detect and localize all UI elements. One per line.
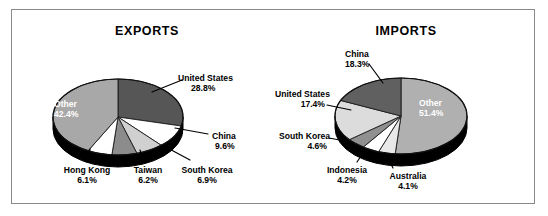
imports-panel: IMPORTS Other 51.4% Australia 4.1% Indon… bbox=[273, 10, 535, 203]
exports-label-taiwan: Taiwan 6.2% bbox=[124, 165, 172, 185]
exports-label-other-name: Other bbox=[54, 99, 77, 109]
exports-label-china-value: 9.6% bbox=[212, 141, 236, 151]
exports-label-china: China 9.6% bbox=[212, 131, 236, 151]
chart-frame: EXPORTS United States 28.8% China 9.6% S… bbox=[11, 9, 535, 204]
imports-label-united-states-name: United States bbox=[275, 89, 330, 99]
imports-label-china: China 18.3% bbox=[345, 49, 369, 69]
exports-label-china-name: China bbox=[212, 131, 236, 141]
imports-label-indonesia-value: 4.2% bbox=[317, 175, 377, 185]
exports-label-hong-kong-value: 6.1% bbox=[54, 175, 120, 185]
exports-label-hong-kong: Hong Kong 6.1% bbox=[54, 165, 120, 185]
imports-label-other-value: 51.4% bbox=[419, 108, 443, 118]
imports-label-united-states-value: 17.4% bbox=[275, 99, 325, 109]
imports-label-south-korea: South Korea 4.6% bbox=[279, 131, 327, 151]
exports-label-united-states-name: United States bbox=[178, 73, 233, 83]
exports-label-taiwan-value: 6.2% bbox=[124, 175, 172, 185]
imports-label-china-value: 18.3% bbox=[345, 59, 369, 69]
imports-label-other: Other 51.4% bbox=[419, 98, 443, 118]
imports-label-south-korea-value: 4.6% bbox=[279, 141, 327, 151]
imports-label-australia: Australia 4.1% bbox=[380, 171, 436, 191]
exports-label-south-korea-name: South Korea bbox=[181, 165, 232, 175]
exports-label-other-value: 42.4% bbox=[54, 109, 78, 119]
exports-label-united-states-value: 28.8% bbox=[178, 83, 233, 93]
exports-label-united-states: United States 28.8% bbox=[178, 73, 233, 93]
imports-label-australia-value: 4.1% bbox=[380, 181, 436, 191]
exports-label-south-korea-value: 6.9% bbox=[176, 175, 238, 185]
imports-label-south-korea-name: South Korea bbox=[279, 131, 330, 141]
imports-label-indonesia: Indonesia 4.2% bbox=[317, 165, 377, 185]
imports-label-indonesia-name: Indonesia bbox=[327, 165, 367, 175]
exports-label-other: Other 42.4% bbox=[54, 99, 78, 119]
imports-label-united-states: United States 17.4% bbox=[275, 89, 325, 109]
imports-label-other-name: Other bbox=[419, 98, 442, 108]
imports-label-china-name: China bbox=[345, 49, 369, 59]
exports-label-south-korea: South Korea 6.9% bbox=[176, 165, 238, 185]
figure-canvas: EXPORTS United States 28.8% China 9.6% S… bbox=[0, 0, 548, 216]
imports-label-australia-name: Australia bbox=[390, 171, 427, 181]
exports-label-hong-kong-name: Hong Kong bbox=[64, 165, 110, 175]
exports-label-taiwan-name: Taiwan bbox=[134, 165, 163, 175]
exports-panel: EXPORTS United States 28.8% China 9.6% S… bbox=[12, 10, 274, 203]
